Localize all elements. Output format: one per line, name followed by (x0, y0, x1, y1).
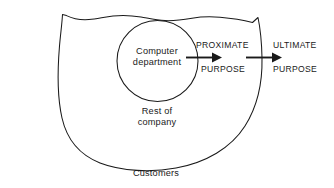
ultimate-purpose-label-line2: PURPOSE (273, 64, 317, 74)
arrow-to-proximate-icon (186, 53, 222, 63)
customers-label: Customers (133, 168, 179, 179)
diagram-drawing (0, 0, 334, 188)
arrow-to-ultimate-icon (246, 53, 282, 63)
outer-blob-label-line2: company (138, 117, 177, 128)
proximate-purpose-label-line1: PROXIMATE (196, 40, 249, 50)
inner-circle-label-line2: department (133, 57, 181, 68)
diagram-canvas: Computer department Rest of company Cust… (0, 0, 334, 188)
proximate-purpose-label-line2: PURPOSE (201, 64, 245, 74)
outer-blob-label: Rest of company (138, 106, 177, 128)
outer-blob-shape (58, 15, 262, 171)
outer-blob-label-line1: Rest of (138, 106, 177, 117)
inner-circle-label: Computer department (133, 46, 181, 68)
inner-circle-label-line1: Computer (133, 46, 181, 57)
ultimate-purpose-label-line1: ULTIMATE (273, 40, 317, 50)
